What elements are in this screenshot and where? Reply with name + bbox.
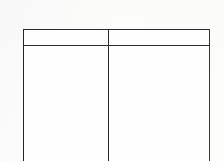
- table-body-cell-column-2-text: [109, 46, 208, 48]
- table-header-cell-column-2: [108, 30, 208, 45]
- table-header-cell-column-1: [24, 30, 108, 45]
- table: [23, 29, 210, 161]
- table-header-row: [23, 29, 210, 46]
- table-body-cell-column-1: [24, 46, 108, 161]
- scanned-page: [0, 0, 224, 161]
- table-header-cell-column-1-text: [24, 30, 108, 32]
- table-body-cell-column-2: [108, 46, 208, 161]
- table-body-cell-column-1-text: [24, 46, 108, 48]
- table-body-row: [23, 46, 210, 161]
- table-header-cell-column-2-text: [109, 30, 208, 32]
